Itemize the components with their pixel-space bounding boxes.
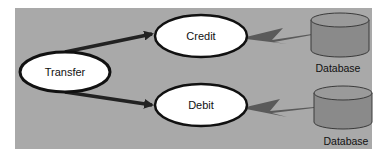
node-credit[interactable]: Credit: [155, 15, 247, 57]
node-transfer-label: Transfer: [45, 66, 86, 78]
database-cylinder-icon: [311, 13, 369, 57]
transfer-diagram: Transfer Credit Debit Database Database: [0, 0, 389, 153]
database-debit[interactable]: Database: [314, 86, 372, 147]
database-debit-label: Database: [324, 135, 369, 147]
node-transfer[interactable]: Transfer: [20, 52, 110, 92]
node-debit[interactable]: Debit: [155, 84, 247, 126]
database-cylinder-icon: [314, 86, 372, 129]
node-debit-label: Debit: [188, 99, 214, 111]
database-credit-label: Database: [316, 62, 361, 74]
node-credit-label: Credit: [186, 30, 215, 42]
database-credit[interactable]: Database: [311, 13, 369, 74]
